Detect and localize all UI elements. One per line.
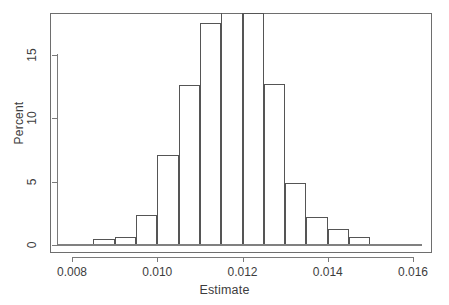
histogram-bar [200,23,221,245]
y-axis-title: Percent [12,93,26,153]
histogram-bar [328,229,349,245]
y-axis-tick [52,182,57,183]
y-axis-tick-label: 5 [18,168,46,196]
y-axis-tick-label: 15 [18,41,46,69]
histogram-bar [221,13,242,245]
histogram-bar [285,183,306,245]
plot-area [50,13,432,253]
x-baseline [58,244,422,246]
x-axis-tick [72,257,73,262]
x-axis-tick [157,257,158,262]
y-axis-tick [52,55,57,56]
x-axis-tick-label: 0.012 [213,265,273,279]
y-axis-tick [52,245,57,246]
histogram-bar [264,84,285,245]
x-axis-tick [243,257,244,262]
histogram-bar [306,217,327,245]
histogram-bar [179,85,200,245]
y-axis-tick-label: 0 [18,231,46,259]
x-axis-title: Estimate [0,283,449,297]
x-axis-tick [328,257,329,262]
y-axis-line [57,54,58,246]
y-axis-tick [52,118,57,119]
x-axis-tick-label: 0.008 [42,265,102,279]
x-axis-tick-label: 0.010 [127,265,187,279]
histogram-bar [243,13,264,245]
histogram-bar [136,215,157,245]
x-axis-tick [413,257,414,262]
x-axis-tick-label: 0.014 [298,265,358,279]
histogram-bar [157,155,178,245]
x-axis-tick-label: 0.016 [383,265,443,279]
histogram-figure: 051015 Percent 0.0080.0100.0120.0140.016… [0,0,449,305]
